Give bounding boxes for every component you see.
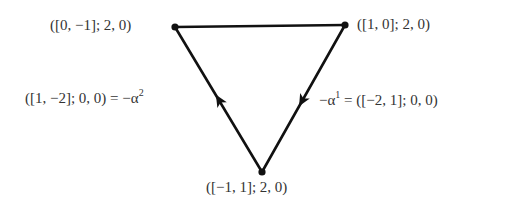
edge-top xyxy=(175,25,345,27)
vertex-label-bottom: ([−1, 1]; 2, 0) xyxy=(206,178,287,196)
vertex-dot-top-right xyxy=(341,21,348,28)
edge-label-left-main: ([1, −2]; 0, 0) = −α xyxy=(25,90,139,106)
edge-label-right-suffix: = ([−2, 1]; 0, 0) xyxy=(340,92,437,108)
vertex-dot-bottom xyxy=(258,168,265,175)
vertex-label-top-left: ([0, −1]; 2, 0) xyxy=(50,16,131,34)
edge-label-left-sup: 2 xyxy=(139,87,144,98)
edge-label-right: −α1 = ([−2, 1]; 0, 0) xyxy=(319,91,438,109)
vertex-dot-top-left xyxy=(171,23,178,30)
arrow-up-icon xyxy=(211,92,227,108)
edge-label-right-main: −α xyxy=(319,92,335,108)
edge-label-left: ([1, −2]; 0, 0) = −α2 xyxy=(25,89,144,107)
vertex-label-top-right: ([1, 0]; 2, 0) xyxy=(357,15,430,33)
edge-label-right-sup: 1 xyxy=(335,89,340,100)
arrow-down-icon xyxy=(294,93,309,109)
